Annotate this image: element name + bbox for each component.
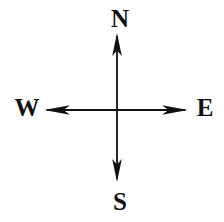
compass-direction-diagram: N S W E xyxy=(0,0,224,222)
north-label: N xyxy=(16,6,224,31)
west-label: W xyxy=(10,95,44,120)
east-label: E xyxy=(190,95,220,120)
south-label: S xyxy=(16,189,224,214)
